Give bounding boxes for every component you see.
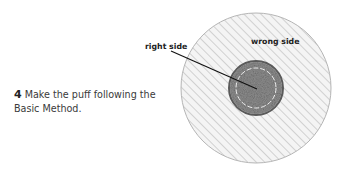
- puff-diagram: [0, 0, 343, 170]
- label-wrong-side: wrong side: [251, 37, 299, 46]
- step-number: 4: [14, 88, 22, 101]
- step-instruction: 4 Make the puff following the Basic Meth…: [14, 88, 184, 116]
- label-right-side: right side: [145, 42, 187, 51]
- step-text: Make the puff following the Basic Method…: [14, 89, 156, 114]
